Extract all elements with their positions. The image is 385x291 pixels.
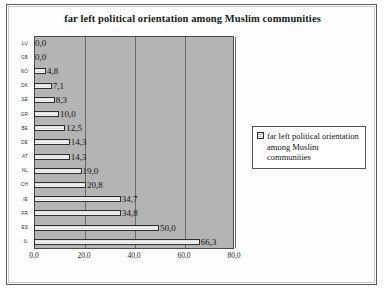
- bar-value-label: 34,8: [122, 208, 138, 218]
- bar-rows: 0,00,04,87,18,310,012,514,314,319,020,83…: [34, 36, 234, 249]
- y-axis-category-label: NO: [0, 64, 31, 78]
- x-axis-tick-label: 40,0: [127, 251, 140, 260]
- bar-value-label: 66,3: [201, 237, 217, 247]
- bar: 12,5: [34, 125, 65, 131]
- bar-row: 50,0: [34, 220, 234, 234]
- bar-row: 14,3: [34, 135, 234, 149]
- bar-value-label: 10,0: [60, 109, 76, 119]
- x-axis-tick-label: 60,0: [177, 251, 190, 260]
- bar-value-label: 12,5: [66, 123, 82, 133]
- x-axis-tick-label: 0,0: [29, 251, 38, 260]
- bar: 4,8: [34, 68, 46, 74]
- y-axis-category-label: DK: [0, 79, 31, 93]
- bar-value-label: 0,0: [35, 38, 46, 48]
- y-axis-category-label: SE: [0, 93, 31, 107]
- y-axis-category-label: BE: [0, 121, 31, 135]
- bar-row: 0,0: [34, 50, 234, 64]
- y-axis-category-label: DE: [0, 135, 31, 149]
- chart-legend: far left political orientation among Mus…: [252, 126, 366, 169]
- bar-row: 12,5: [34, 121, 234, 135]
- bar-row: 34,8: [34, 206, 234, 220]
- bar: 34,7: [34, 196, 121, 202]
- legend-entry: far left political orientation among Mus…: [257, 131, 361, 163]
- legend-swatch-icon: [257, 132, 264, 139]
- y-axis-category-label: AT: [0, 150, 31, 164]
- legend-entry-label: far left political orientation among Mus…: [267, 131, 361, 163]
- bar: 14,3: [34, 139, 70, 145]
- bar-row: 8,3: [34, 93, 234, 107]
- bar: 66,3: [34, 239, 200, 245]
- bar-value-label: 20,8: [87, 180, 103, 190]
- y-axis-category-label: LU: [0, 36, 31, 50]
- chart-title: far left political orientation among Mus…: [0, 13, 385, 24]
- y-axis-category-label: IE: [0, 192, 31, 206]
- bar-row: 20,8: [34, 178, 234, 192]
- bar-value-label: 14,3: [71, 152, 87, 162]
- bar: 8,3: [34, 97, 55, 103]
- y-axis-category-label: GR: [0, 107, 31, 121]
- x-axis-tick-label: 20,0: [77, 251, 90, 260]
- y-axis-category-label: ES: [0, 220, 31, 234]
- y-axis-category-labels: LUGBNODKSEGRBEDEATNLCHIEFRESIL: [0, 36, 31, 249]
- plot-wrapper: 0,00,04,87,18,310,012,514,314,319,020,83…: [34, 36, 234, 249]
- bar-row: 14,3: [34, 150, 234, 164]
- y-axis-category-label: CH: [0, 178, 31, 192]
- bar-value-label: 50,0: [160, 223, 176, 233]
- bar-value-label: 8,3: [56, 95, 67, 105]
- bar-value-label: 19,0: [83, 166, 99, 176]
- bar: 19,0: [34, 168, 82, 174]
- y-axis-category-label: NL: [0, 164, 31, 178]
- bar-row: 19,0: [34, 164, 234, 178]
- bar-row: 0,0: [34, 36, 234, 50]
- y-axis-category-label: IL: [0, 235, 31, 249]
- bar-value-label: 0,0: [35, 52, 46, 62]
- bar: 50,0: [34, 225, 159, 231]
- chart-screenshot: far left political orientation among Mus…: [0, 0, 385, 291]
- bar-value-label: 4,8: [47, 66, 58, 76]
- bar-value-label: 34,7: [122, 194, 138, 204]
- bar-row: 10,0: [34, 107, 234, 121]
- bar-value-label: 14,3: [71, 137, 87, 147]
- bar: 20,8: [34, 182, 86, 188]
- bar: 14,3: [34, 154, 70, 160]
- bar: 10,0: [34, 111, 59, 117]
- bar: 34,8: [34, 210, 121, 216]
- bar: 7,1: [34, 83, 52, 89]
- bar-row: 34,7: [34, 192, 234, 206]
- x-axis-tick-labels: 0,020,040,060,080,0: [34, 251, 234, 265]
- x-axis-tick-label: 80,0: [227, 251, 240, 260]
- y-axis-category-label: FR: [0, 206, 31, 220]
- y-axis-category-label: GB: [0, 50, 31, 64]
- bar-row: 66,3: [34, 235, 234, 249]
- gridline: [235, 37, 236, 248]
- bar-row: 4,8: [34, 64, 234, 78]
- bar-row: 7,1: [34, 79, 234, 93]
- bar-value-label: 7,1: [53, 81, 64, 91]
